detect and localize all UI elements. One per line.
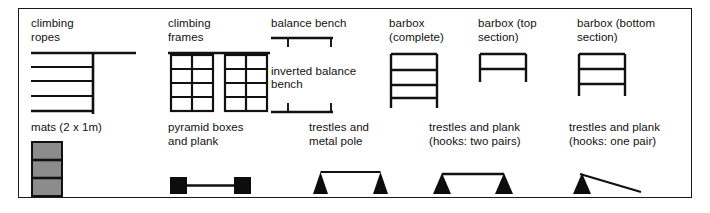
legend-item-label: barbox (complete) bbox=[389, 17, 479, 44]
legend-item-trestles-and-metal-pole[interactable]: trestles and metal pole bbox=[309, 121, 439, 196]
legend-item-barbox-bottom-section[interactable]: barbox (bottom section) bbox=[577, 17, 687, 98]
legend-item-label: trestles and plank (hooks: two pairs) bbox=[429, 121, 579, 148]
legend-item-label: mats (2 x 1m) bbox=[31, 121, 171, 135]
climbing-ropes-icon bbox=[31, 50, 149, 115]
legend-item-label: barbox (top section) bbox=[478, 17, 578, 44]
legend-bottom-row: mats (2 x 1m) pyramid boxes and plank bbox=[19, 121, 691, 197]
legend-item-inverted-balance-bench[interactable]: inverted balance bench bbox=[271, 65, 381, 114]
legend-item-label: balance bench bbox=[271, 17, 381, 31]
trestles-and-metal-pole-icon bbox=[309, 168, 439, 196]
legend-item-pyramid-boxes-and-plank[interactable]: pyramid boxes and plank bbox=[168, 121, 308, 196]
legend-item-trestles-and-plank-two-pairs[interactable]: trestles and plank (hooks: two pairs) bbox=[429, 121, 579, 196]
legend-item-balance-bench[interactable]: balance bench bbox=[271, 17, 381, 49]
legend-item-label: pyramid boxes and plank bbox=[168, 121, 308, 148]
barbox-bottom-section-icon bbox=[577, 52, 687, 98]
legend-item-balance-benches[interactable]: balance bench inverted balance bench bbox=[271, 17, 381, 114]
legend-item-label: climbing ropes bbox=[31, 17, 149, 44]
legend-item-label: inverted balance bench bbox=[271, 65, 381, 92]
pyramid-boxes-and-plank-icon bbox=[168, 174, 308, 196]
legend-item-label: trestles and metal pole bbox=[309, 121, 439, 148]
legend-item-label: trestles and plank (hooks: one pair) bbox=[569, 121, 710, 148]
trestles-and-plank-two-pairs-icon bbox=[429, 168, 579, 196]
legend-item-mats[interactable]: mats (2 x 1m) bbox=[31, 121, 171, 197]
legend-panel: climbing ropes climbing frames bbox=[18, 8, 692, 198]
mats-icon bbox=[31, 141, 171, 197]
legend-item-trestles-and-plank-one-pair[interactable]: trestles and plank (hooks: one pair) bbox=[569, 121, 710, 196]
legend-item-climbing-ropes[interactable]: climbing ropes bbox=[31, 17, 149, 115]
legend-item-barbox-complete[interactable]: barbox (complete) bbox=[389, 17, 479, 110]
legend-item-barbox-top-section[interactable]: barbox (top section) bbox=[478, 17, 578, 84]
legend-top-row: climbing ropes climbing frames bbox=[19, 17, 691, 115]
balance-bench-icon bbox=[271, 36, 381, 49]
legend-item-label: barbox (bottom section) bbox=[577, 17, 687, 44]
trestles-and-plank-one-pair-icon bbox=[569, 168, 710, 196]
barbox-top-section-icon bbox=[478, 52, 578, 84]
inverted-balance-bench-icon bbox=[271, 101, 381, 114]
barbox-complete-icon bbox=[389, 52, 479, 110]
